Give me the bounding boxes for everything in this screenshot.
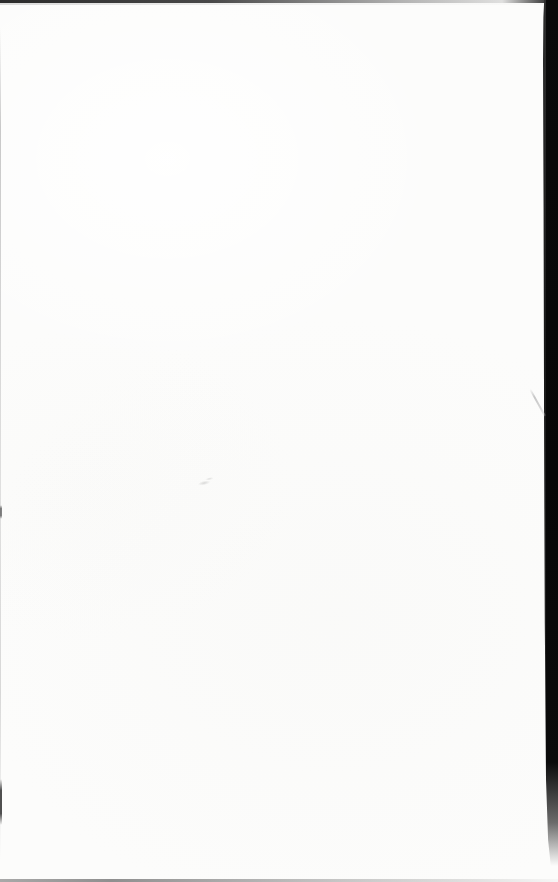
scanned-page (0, 0, 558, 882)
scan-left-edge-notch-upper (0, 505, 2, 519)
scan-top-edge-shadow (0, 0, 558, 3)
scan-hair-artifact (529, 389, 546, 417)
paper-smudge-mark (195, 474, 217, 490)
scan-left-edge-line (0, 28, 1, 860)
scan-left-edge-notch-lower (0, 779, 2, 825)
scan-right-edge-background (543, 0, 558, 866)
